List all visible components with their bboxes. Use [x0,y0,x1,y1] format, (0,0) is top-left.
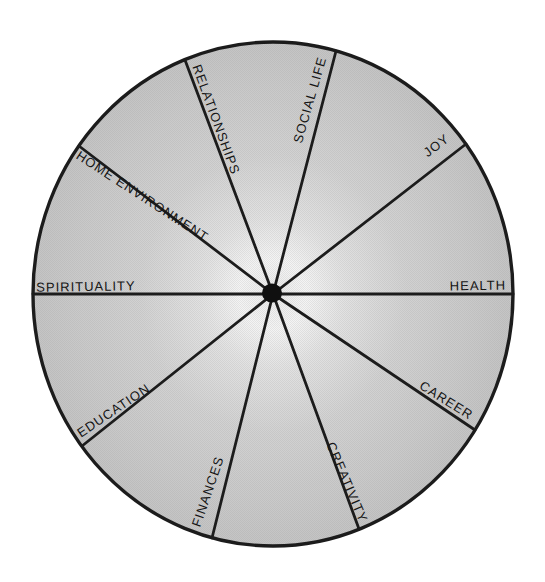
sector-label-spirituality: SPIRITUALITY [36,278,136,295]
life-wheel-page: SOCIAL LIFE JOY HEALTH CAREER CREATIVITY… [0,0,545,582]
sector-label-health: HEALTH [450,278,507,294]
life-wheel-diagram: SOCIAL LIFE JOY HEALTH CAREER CREATIVITY… [0,0,545,582]
wheel-center-dot [262,284,282,303]
